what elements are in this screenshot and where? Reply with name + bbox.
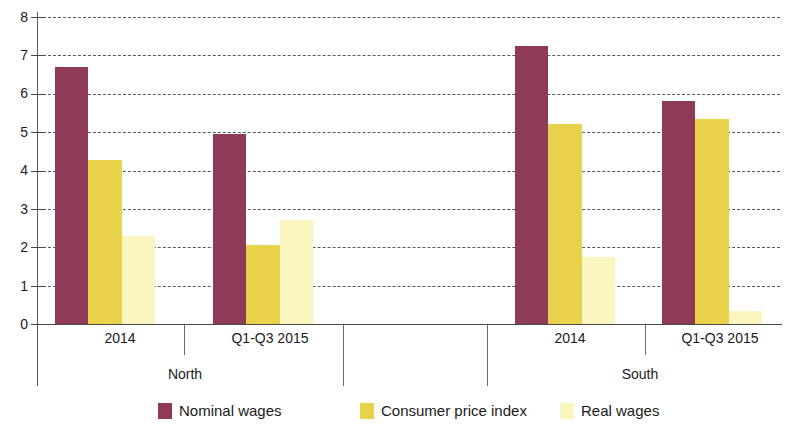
bar-cpi-north-2015 (246, 245, 280, 324)
legend-swatch-real-wages (560, 403, 574, 419)
legend-item-real-wages: Real wages (560, 402, 659, 420)
region-separator-south (487, 324, 488, 386)
region-label-north: North (135, 366, 235, 382)
legend: Nominal wages Consumer price index Real … (0, 402, 786, 427)
bar-real-north-2014 (122, 236, 155, 324)
bar-real-south-2015 (729, 311, 762, 324)
legend-label-consumer-price-index: Consumer price index (381, 402, 527, 420)
legend-item-consumer-price-index: Consumer price index (360, 402, 527, 420)
bars-layer (0, 17, 786, 324)
category-separator-north-1 (184, 324, 185, 355)
category-label-south-2014: 2014 (500, 330, 640, 346)
bar-chart: 8 7 6 5 4 3 2 1 0 (0, 0, 786, 427)
y-tick-0 (31, 324, 44, 325)
legend-swatch-consumer-price-index (360, 403, 374, 419)
legend-label-real-wages: Real wages (581, 402, 659, 420)
category-label-south-2015: Q1-Q3 2015 (655, 330, 785, 346)
legend-label-nominal-wages: Nominal wages (179, 402, 282, 420)
bar-nominal-south-2015 (662, 101, 695, 324)
category-separator-south-1 (645, 324, 646, 355)
bar-real-south-2014 (582, 257, 615, 324)
bar-nominal-north-2015 (213, 134, 246, 324)
bar-cpi-south-2014 (548, 124, 582, 324)
category-label-north-2015: Q1-Q3 2015 (200, 330, 340, 346)
x-axis (38, 324, 782, 325)
legend-swatch-nominal-wages (158, 403, 172, 419)
bar-real-north-2015 (280, 220, 313, 324)
legend-item-nominal-wages: Nominal wages (158, 402, 282, 420)
region-separator-north (343, 324, 344, 386)
region-label-south: South (590, 366, 690, 382)
bar-nominal-north-2014 (55, 67, 88, 324)
bar-nominal-south-2014 (515, 46, 548, 324)
bar-cpi-north-2014 (88, 160, 122, 324)
category-label-north-2014: 2014 (60, 330, 180, 346)
bar-cpi-south-2015 (695, 119, 729, 324)
